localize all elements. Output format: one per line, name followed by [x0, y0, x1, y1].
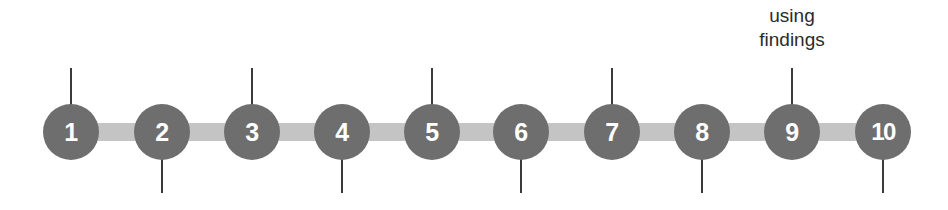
timeline-node-label: 2: [155, 120, 168, 145]
timeline-node-8[interactable]: 8: [674, 104, 730, 160]
timeline-node-4[interactable]: 4: [314, 104, 370, 160]
tick-mark-5: [431, 68, 433, 108]
timeline-node-7[interactable]: 7: [584, 104, 640, 160]
tick-mark-7: [611, 68, 613, 108]
timeline-node-label: 3: [245, 120, 258, 145]
annotation-line: using: [759, 4, 825, 28]
tick-mark-3: [251, 68, 253, 108]
timeline-node-label: 9: [785, 120, 798, 145]
timeline-node-3[interactable]: 3: [224, 104, 280, 160]
tick-mark-8: [701, 157, 703, 193]
timeline-node-label: 7: [605, 120, 618, 145]
timeline-node-label: 4: [335, 120, 348, 145]
timeline-node-label: 5: [425, 120, 438, 145]
timeline-node-10[interactable]: 10: [855, 104, 911, 160]
tick-mark-6: [520, 157, 522, 193]
timeline-node-1[interactable]: 1: [43, 104, 99, 160]
tick-mark-2: [161, 157, 163, 193]
timeline-node-5[interactable]: 5: [404, 104, 460, 160]
timeline-node-label: 8: [695, 120, 708, 145]
timeline-node-label: 6: [514, 120, 527, 145]
annotation-for-node-9: usingfindings: [759, 4, 825, 52]
step-timeline-diagram: 12345678910 usingfindings: [0, 0, 948, 210]
tick-mark-4: [341, 157, 343, 193]
timeline-node-2[interactable]: 2: [134, 104, 190, 160]
timeline-node-label: 10: [871, 120, 895, 144]
tick-mark-10: [882, 157, 884, 193]
annotation-line: findings: [759, 28, 825, 52]
timeline-node-9[interactable]: 9: [764, 104, 820, 160]
tick-mark-1: [70, 68, 72, 108]
tick-mark-9: [791, 68, 793, 108]
timeline-node-label: 1: [64, 120, 77, 145]
timeline-node-6[interactable]: 6: [493, 104, 549, 160]
